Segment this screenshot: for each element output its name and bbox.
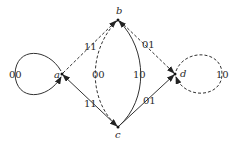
node-c-label: c: [115, 129, 121, 140]
edge-c-d-label: 01: [143, 95, 156, 106]
loop-a-label: 00: [9, 69, 22, 80]
edge-b-c-solid-label: 10: [133, 69, 146, 80]
node-b-label: b: [116, 5, 122, 16]
state-diagram: a b c d 00 11 01 11 01 00 10 10: [0, 0, 238, 144]
edge-b-d-label: 01: [142, 39, 155, 50]
node-d-label: d: [180, 68, 186, 79]
edge-b-c-dashed-label: 00: [92, 69, 105, 80]
node-d-dot: [174, 73, 177, 76]
loop-d-label: 10: [216, 69, 229, 80]
node-b-dot: [117, 19, 120, 22]
node-a-dot: [61, 73, 64, 76]
edge-a-b-label: 11: [84, 41, 97, 52]
edge-a-c-label: 11: [84, 98, 97, 109]
node-a-label: a: [54, 69, 60, 80]
